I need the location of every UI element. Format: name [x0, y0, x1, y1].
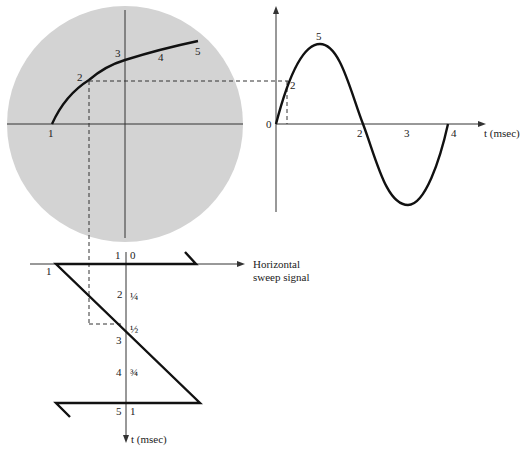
sine-point2-label: 2	[290, 79, 296, 91]
sweep-time-axis-label: t (msec)	[131, 433, 167, 446]
sweep-right-label-quarter: ¼	[130, 290, 138, 302]
scope-screen: 1 2 3 4 5	[7, 6, 243, 242]
scope-label-4: 4	[158, 51, 164, 63]
sweep-horizontal-arrow-icon	[237, 261, 245, 267]
sine-peak-label: 5	[316, 30, 322, 42]
sweep-plot: Horizontal sweep signal t (msec) 1 1 2 3…	[30, 249, 310, 446]
scope-label-2: 2	[77, 71, 83, 83]
sine-plot: 0 5 2 2 3 4 t (msec)	[266, 6, 520, 212]
sweep-left-label-1a: 1	[46, 265, 52, 277]
sweep-right-label-three-quarter: ¾	[130, 366, 138, 378]
sweep-axis-label-line2: sweep signal	[253, 271, 310, 283]
sine-axis-label: t (msec)	[484, 127, 520, 140]
scope-label-3: 3	[115, 47, 121, 59]
sweep-vertical-arrow-icon	[123, 435, 129, 443]
sweep-left-label-4: 4	[116, 366, 122, 378]
oscilloscope-sweep-diagram: 1 2 3 4 5 0 5 2 2 3 4 t (msec) Horizonta…	[0, 0, 528, 450]
scope-label-5: 5	[195, 45, 201, 57]
scope-label-1: 1	[48, 127, 54, 139]
sweep-sawtooth-trace	[56, 252, 200, 417]
sweep-axis-label-line1: Horizontal	[253, 258, 300, 270]
sine-tick-4: 4	[451, 127, 457, 139]
sweep-right-label-1: 1	[130, 405, 136, 417]
sine-origin-label: 0	[266, 118, 272, 130]
sweep-left-label-5: 5	[116, 405, 122, 417]
sweep-left-label-3: 3	[116, 334, 122, 346]
sweep-left-label-1b: 1	[115, 249, 121, 261]
sine-tick-3: 3	[404, 127, 410, 139]
sine-y-arrow-icon	[273, 6, 279, 14]
sweep-left-label-2: 2	[117, 288, 123, 300]
sweep-right-label-half: ½	[130, 323, 138, 335]
sweep-right-label-0: 0	[130, 249, 136, 261]
sine-tick-2: 2	[357, 127, 363, 139]
